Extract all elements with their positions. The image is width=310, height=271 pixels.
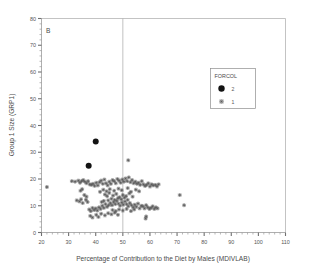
svg-text:70: 70 — [30, 42, 36, 48]
legend-entry-label: 1 — [232, 99, 235, 105]
svg-text:50: 50 — [120, 239, 126, 245]
svg-text:40: 40 — [30, 123, 36, 129]
panel-label: B — [46, 27, 51, 34]
svg-text:40: 40 — [93, 239, 99, 245]
legend-title: FORCOL — [215, 73, 237, 79]
plot-canvas: 2030405060708090100110 01020304050607080… — [0, 0, 310, 271]
svg-text:60: 60 — [30, 69, 36, 75]
data-point — [86, 163, 92, 169]
svg-text:90: 90 — [228, 239, 234, 245]
series-1 — [45, 158, 186, 220]
data-point — [93, 139, 99, 145]
scatter-plot-figure: 2030405060708090100110 01020304050607080… — [0, 0, 310, 271]
svg-text:70: 70 — [174, 239, 180, 245]
svg-text:0: 0 — [33, 230, 36, 236]
svg-text:30: 30 — [66, 239, 72, 245]
svg-text:30: 30 — [30, 149, 36, 155]
series-2 — [86, 139, 99, 169]
legend: FORCOL21 — [211, 69, 256, 109]
legend-entry-label: 2 — [232, 86, 235, 92]
svg-text:80: 80 — [201, 239, 207, 245]
svg-text:80: 80 — [30, 16, 36, 22]
x-axis-ticks: 2030405060708090100110 — [39, 233, 290, 245]
y-axis-ticks: 01020304050607080 — [30, 16, 42, 236]
svg-text:10: 10 — [30, 203, 36, 209]
svg-text:50: 50 — [30, 96, 36, 102]
filled-circle-icon — [218, 85, 224, 91]
data-points — [45, 139, 186, 221]
x-axis-title: Percentage of Contribution to the Diet b… — [76, 255, 250, 263]
y-axis-title: Group 1 Size (GRP1) — [8, 94, 16, 157]
svg-text:100: 100 — [254, 239, 263, 245]
svg-text:20: 20 — [30, 176, 36, 182]
svg-text:110: 110 — [281, 239, 290, 245]
svg-text:60: 60 — [147, 239, 153, 245]
svg-text:20: 20 — [39, 239, 45, 245]
